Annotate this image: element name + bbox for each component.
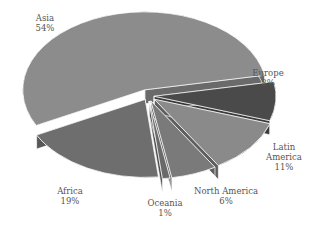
label-name-north-america: North America bbox=[194, 186, 258, 196]
label-value-africa: 19% bbox=[61, 196, 80, 206]
label-name-asia: Asia bbox=[35, 13, 54, 23]
label-value-asia: 54% bbox=[36, 23, 55, 33]
label-name-latin-america: Latin bbox=[273, 142, 296, 152]
pie-chart: Asia54%Europe8%LatinAmerica11%North Amer… bbox=[0, 0, 313, 229]
label-name-europe: Europe bbox=[252, 68, 283, 78]
label-value-latin-america: 11% bbox=[275, 162, 294, 172]
label-oceania: Oceania1% bbox=[147, 198, 182, 218]
label-name-africa: Africa bbox=[56, 186, 83, 196]
label-asia: Asia54% bbox=[35, 13, 55, 33]
label-north-america: North America6% bbox=[194, 186, 258, 206]
label-value-north-america: 6% bbox=[219, 196, 233, 206]
label-latin-america: LatinAmerica11% bbox=[265, 142, 302, 172]
label-africa: Africa19% bbox=[56, 186, 83, 206]
label-name-latin-america: America bbox=[265, 152, 302, 162]
label-value-oceania: 1% bbox=[158, 208, 172, 218]
label-value-europe: 8% bbox=[261, 78, 275, 88]
label-name-oceania: Oceania bbox=[147, 198, 182, 208]
